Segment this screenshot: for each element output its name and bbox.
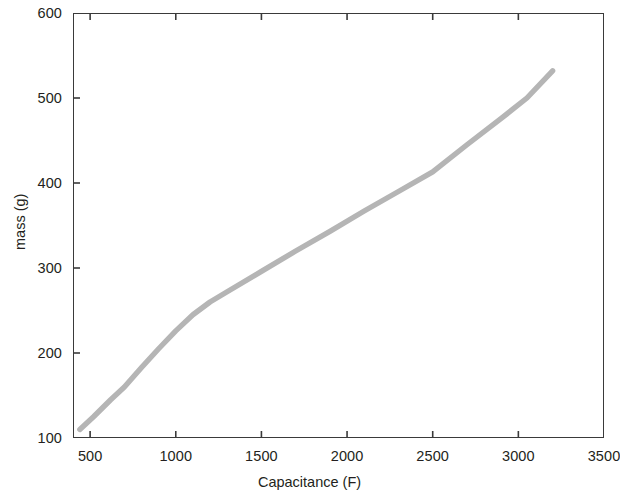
y-tick-label: 500 [10,90,62,106]
y-axis-title: mass (g) [12,130,28,250]
y-tick-label: 600 [10,5,62,21]
plot-frame [73,13,604,438]
x-tick-label: 500 [78,448,103,464]
x-tick-label: 2500 [416,448,449,464]
x-tick-label: 1000 [159,448,192,464]
x-axis-title: Capacitance (F) [0,474,619,490]
x-tick-label: 1500 [245,448,278,464]
x-tick-label: 3500 [588,448,620,464]
y-tick-label: 100 [10,430,62,446]
x-tick-label: 3000 [502,448,535,464]
y-tick-label: 200 [10,345,62,361]
y-tick-label: 300 [10,260,62,276]
x-tick-label: 2000 [331,448,364,464]
